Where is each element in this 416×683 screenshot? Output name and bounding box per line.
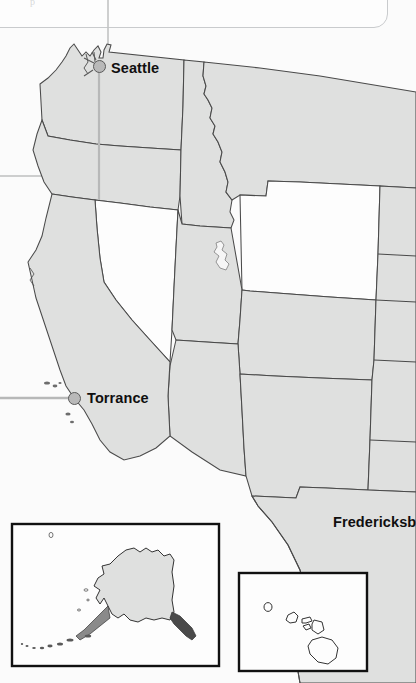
- state-montana[interactable]: [203, 62, 416, 200]
- inset-alaska[interactable]: [12, 524, 219, 666]
- city-label-fredericksburg[interactable]: Fredericksb: [333, 514, 416, 530]
- state-arizona[interactable]: [168, 340, 246, 476]
- city-marker-seattle[interactable]: [93, 60, 106, 73]
- state-colorado[interactable]: [238, 290, 376, 380]
- state-wyoming[interactable]: [240, 181, 380, 300]
- us-map[interactable]: [0, 0, 416, 683]
- state-utah[interactable]: [172, 210, 242, 344]
- city-marker-torrance[interactable]: [68, 392, 81, 405]
- city-label-seattle[interactable]: Seattle: [111, 60, 159, 76]
- state-new-mexico[interactable]: [240, 374, 372, 498]
- inset-hawaii[interactable]: [239, 573, 367, 671]
- map-page: p: [0, 0, 416, 683]
- city-label-torrance[interactable]: Torrance: [87, 390, 149, 406]
